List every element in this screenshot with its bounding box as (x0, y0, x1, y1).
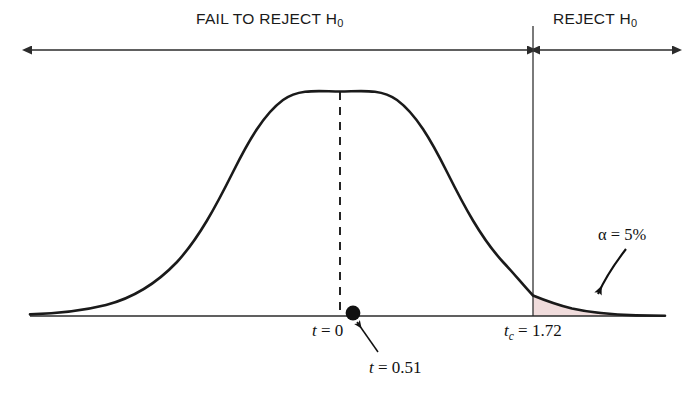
test-statistic-equation: = 0.51 (374, 358, 422, 377)
t-distribution-curve (30, 91, 665, 316)
test-statistic-pointer (357, 322, 378, 352)
alpha-level-label: α = 5% (598, 225, 646, 245)
reject-subscript: 0 (631, 17, 637, 29)
critical-equation: = 1.72 (514, 321, 562, 340)
alpha-pointer-arrow (598, 249, 626, 294)
figure-canvas: FAIL TO REJECT H0 REJECT H0 t = 0 tc = 1… (0, 0, 695, 406)
fail-to-reject-subscript: 0 (337, 17, 343, 29)
reject-label: REJECT H0 (553, 10, 637, 29)
fail-to-reject-label: FAIL TO REJECT H0 (196, 10, 344, 29)
reject-text: REJECT H (553, 10, 631, 27)
test-statistic-dot (346, 306, 361, 321)
critical-value-label: tc = 1.72 (504, 321, 562, 342)
test-statistic-label: t = 0.51 (369, 358, 422, 378)
fail-to-reject-text: FAIL TO REJECT H (196, 10, 337, 27)
distribution-figure (0, 0, 695, 406)
center-equation: = 0 (317, 321, 344, 340)
center-value-label: t = 0 (312, 321, 343, 341)
